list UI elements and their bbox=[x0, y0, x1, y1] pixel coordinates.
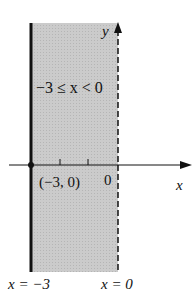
x-axis-label: x bbox=[176, 178, 183, 193]
x-axis-arrow-icon bbox=[180, 161, 192, 169]
right-boundary-label: x = 0 bbox=[101, 277, 133, 292]
graph bbox=[0, 0, 193, 301]
point-label: (−3, 0) bbox=[39, 175, 80, 190]
point-marker bbox=[28, 162, 34, 168]
left-boundary-label: x = −3 bbox=[8, 277, 50, 292]
region-label: −3 ≤ x < 0 bbox=[36, 80, 103, 96]
y-axis-label: y bbox=[102, 24, 109, 39]
origin-label: 0 bbox=[104, 173, 112, 188]
shaded-region bbox=[31, 23, 118, 272]
